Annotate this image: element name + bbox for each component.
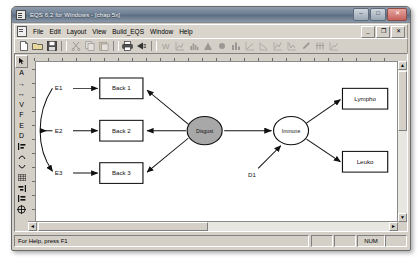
- drawing-palette: A → ↔ V F E D: [15, 54, 29, 231]
- results-icon[interactable]: [327, 40, 340, 52]
- scroll-down-button[interactable]: ▼: [398, 213, 407, 222]
- scroll-right-button[interactable]: ►: [389, 222, 398, 231]
- toolbar-separator: [151, 41, 157, 51]
- vertical-scroll-thumb[interactable]: [398, 71, 407, 131]
- print-icon[interactable]: [121, 40, 134, 52]
- center-tool-icon[interactable]: [16, 204, 27, 215]
- mdi-minimize-button[interactable]: _: [361, 26, 375, 38]
- new-icon[interactable]: [17, 40, 30, 52]
- scatter-plot2-icon[interactable]: [257, 40, 270, 52]
- point-icon[interactable]: [215, 40, 228, 52]
- path-disgust-to-back3: [147, 138, 188, 172]
- menu-item-build-eqs[interactable]: Build_EQS: [109, 28, 147, 35]
- scroll-up-button[interactable]: ▲: [398, 61, 407, 70]
- align-tool-icon[interactable]: [16, 141, 27, 152]
- close-button[interactable]: ✕: [387, 8, 407, 21]
- label-e2: E2: [55, 128, 63, 134]
- label-d1: D1: [248, 172, 256, 178]
- path-disgust-to-back1: [147, 90, 188, 124]
- disturbance-tool-icon[interactable]: D: [16, 131, 27, 142]
- distribution-icon[interactable]: [201, 40, 214, 52]
- scatter-plot-icon[interactable]: [243, 40, 256, 52]
- path-d1-to-immune: [258, 146, 281, 169]
- status-num-indicator: NUM: [357, 235, 385, 247]
- box-back3-label: Back 3: [112, 170, 132, 176]
- document-icon[interactable]: [17, 26, 27, 37]
- diagram-canvas[interactable]: E1 E2 E3 Back 1 Back 2 Back 3: [36, 62, 398, 222]
- label-e1: E1: [55, 85, 63, 91]
- factor-tool-icon[interactable]: F: [16, 110, 27, 121]
- text-tool-icon[interactable]: A: [16, 68, 27, 79]
- box-lympho-label: Lympho: [354, 96, 376, 102]
- two-way-arrow-tool-icon[interactable]: ↔: [16, 89, 27, 100]
- error-tool-icon[interactable]: E: [16, 120, 27, 131]
- application-window: EQS 6.2 for Windows - [chap 5x] – □ ✕ Fi…: [11, 6, 411, 251]
- window-title: EQS 6.2 for Windows - [chap 5x]: [30, 12, 120, 18]
- grid-tool-icon[interactable]: [16, 173, 27, 184]
- app-icon[interactable]: [16, 10, 26, 20]
- window-controls: – □ ✕: [353, 8, 407, 21]
- box-back1-label: Back 1: [112, 85, 131, 91]
- label-e3: E3: [55, 170, 63, 176]
- status-pane-1: [311, 235, 333, 247]
- horizontal-scroll-thumb[interactable]: [38, 222, 208, 231]
- desktop-background: EQS 6.2 for Windows - [chap 5x] – □ ✕ Fi…: [0, 0, 420, 259]
- menu-item-help[interactable]: Help: [176, 28, 195, 35]
- wizard-icon[interactable]: W: [159, 40, 172, 52]
- menu-bar: File Edit Layout View Build_EQS Window H…: [14, 24, 408, 39]
- toolbar-separator: [113, 41, 119, 51]
- vertical-ruler: [28, 61, 36, 231]
- group-tool-icon[interactable]: [16, 194, 27, 205]
- menu-item-view[interactable]: View: [89, 28, 109, 35]
- menu-item-edit[interactable]: Edit: [46, 28, 63, 35]
- main-toolbar: W: [14, 38, 408, 54]
- horizontal-ruler: [28, 54, 407, 62]
- factor-disgust-label: Disgust: [196, 129, 214, 134]
- menu-item-window[interactable]: Window: [147, 28, 176, 35]
- box-back2-label: Back 2: [112, 128, 131, 134]
- run-icon[interactable]: [313, 40, 326, 52]
- variance-tool-icon[interactable]: V: [16, 99, 27, 110]
- bar-chart-icon[interactable]: [229, 40, 242, 52]
- curve-left-tool-icon[interactable]: [16, 152, 27, 163]
- scroll-left-button[interactable]: ◄: [28, 222, 37, 231]
- path-immune-to-leuko: [306, 139, 340, 162]
- status-bar: For Help, press F1 NUM: [14, 234, 408, 248]
- curve-right-tool-icon[interactable]: [16, 162, 27, 173]
- edit-model-icon[interactable]: [299, 40, 312, 52]
- box-leuko-label: Leuko: [357, 159, 375, 165]
- mdi-client-area: A → ↔ V F E D: [14, 53, 408, 232]
- path-immune-to-lympho: [306, 100, 340, 124]
- menu-item-layout[interactable]: Layout: [64, 28, 90, 35]
- scrollbar-corner: [398, 222, 407, 231]
- line-plot2-icon[interactable]: [285, 40, 298, 52]
- histogram-icon[interactable]: [187, 40, 200, 52]
- paste-icon[interactable]: [97, 40, 110, 52]
- mdi-close-button[interactable]: ✕: [391, 26, 405, 38]
- print-preview-icon[interactable]: [135, 40, 148, 52]
- save-icon[interactable]: [45, 40, 58, 52]
- pointer-tool-icon[interactable]: [15, 55, 28, 68]
- title-bar[interactable]: EQS 6.2 for Windows - [chap 5x] – □ ✕: [12, 7, 410, 23]
- toolbar-separator: [61, 41, 67, 51]
- snap-tool-icon[interactable]: [16, 183, 27, 194]
- covariance-e1-e3: [40, 88, 52, 171]
- cut-icon[interactable]: [69, 40, 82, 52]
- open-icon[interactable]: [31, 40, 44, 52]
- vertical-scrollbar[interactable]: ▲ ▼: [397, 61, 407, 222]
- path-diagram[interactable]: E1 E2 E3 Back 1 Back 2 Back 3: [36, 62, 398, 222]
- menu-item-file[interactable]: File: [30, 28, 46, 35]
- horizontal-scrollbar[interactable]: ◄ ►: [28, 221, 398, 231]
- one-way-arrow-tool-icon[interactable]: →: [16, 78, 27, 89]
- factor-immune-label: Immune: [282, 129, 301, 134]
- mdi-restore-button[interactable]: ❐: [376, 26, 390, 38]
- mdi-window-controls: _ ❐ ✕: [361, 26, 405, 38]
- status-help-text: For Help, press F1: [14, 235, 309, 247]
- copy-icon[interactable]: [83, 40, 96, 52]
- line-plot-icon[interactable]: [271, 40, 284, 52]
- maximize-button[interactable]: □: [370, 8, 386, 21]
- regression-plot-icon[interactable]: [173, 40, 186, 52]
- minimize-button[interactable]: –: [353, 8, 369, 21]
- status-pane-2: [334, 235, 356, 247]
- svg-text:W: W: [162, 42, 170, 51]
